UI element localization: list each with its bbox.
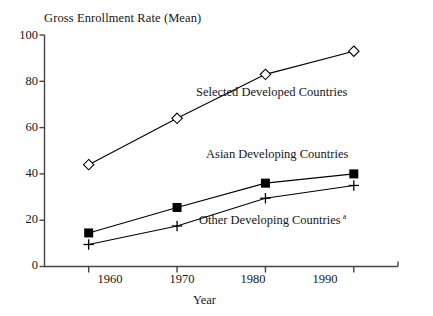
data-series-group bbox=[83, 46, 359, 250]
data-point-open-diamond bbox=[172, 113, 182, 123]
chart-container: Gross Enrollment Rate (Mean) 100 80 60 4… bbox=[0, 0, 433, 316]
series-1 bbox=[83, 46, 359, 170]
y-axis-ticks bbox=[40, 35, 45, 267]
data-point-filled-square bbox=[173, 203, 182, 212]
data-point-open-diamond bbox=[349, 46, 359, 56]
series-3 bbox=[83, 180, 359, 249]
data-point-filled-square bbox=[84, 228, 93, 237]
series-2 bbox=[84, 169, 358, 237]
data-point-plus bbox=[83, 239, 93, 249]
series-line bbox=[89, 185, 354, 244]
data-point-filled-square bbox=[349, 169, 358, 178]
axes bbox=[40, 35, 399, 273]
plot-area bbox=[0, 0, 433, 316]
data-point-filled-square bbox=[261, 179, 270, 188]
data-point-open-diamond bbox=[260, 69, 270, 79]
data-point-plus bbox=[172, 221, 182, 231]
data-point-plus bbox=[260, 193, 270, 203]
annotation-leader-1 bbox=[143, 103, 175, 130]
series-line bbox=[89, 51, 354, 164]
data-point-open-diamond bbox=[83, 159, 93, 169]
annotation-leader-3 bbox=[174, 195, 235, 216]
series-line bbox=[89, 174, 354, 233]
annotation-leader-2 bbox=[186, 164, 250, 177]
data-point-plus bbox=[349, 180, 359, 190]
